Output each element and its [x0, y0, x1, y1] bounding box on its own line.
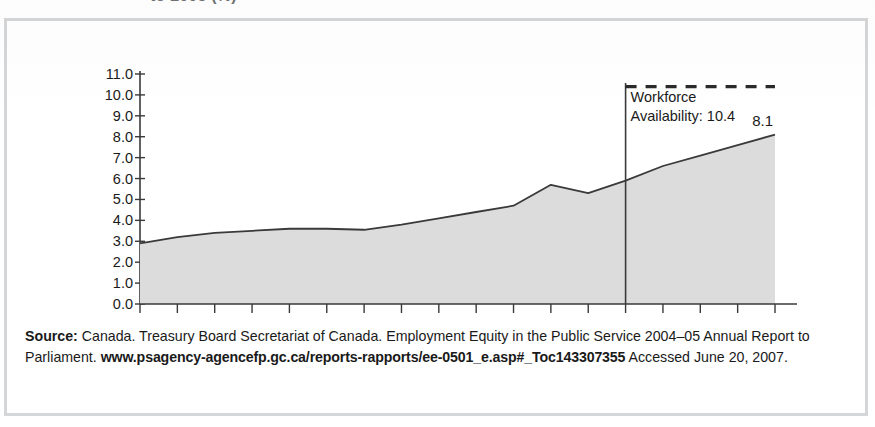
y-tick-label: 5.0	[113, 191, 133, 207]
workforce-availability-label-line1: Workforce	[631, 89, 697, 105]
source-line1: Canada. Treasury Board Secretariat of Ca…	[78, 328, 748, 344]
chart-figure: 0.01.02.03.04.05.06.07.08.09.010.011.0 W…	[7, 21, 865, 316]
y-tick-label: 7.0	[113, 150, 133, 166]
y-tick-label: 9.0	[113, 108, 133, 124]
y-tick-label: 0.0	[113, 296, 133, 312]
y-tick-label: 1.0	[113, 275, 133, 291]
y-tick-label: 3.0	[113, 233, 133, 249]
source-label: Source:	[25, 328, 78, 344]
figure-panel: 0.01.02.03.04.05.06.07.08.09.010.011.0 W…	[4, 18, 868, 416]
source-line2-after: Accessed	[625, 349, 690, 365]
source-line3: June 20, 2007.	[694, 349, 788, 365]
y-tick-label: 2.0	[113, 254, 133, 270]
figure-title-clipped: to 2005 (%)	[0, 0, 875, 16]
endpoint-value-label: 8.1	[752, 112, 773, 129]
y-tick-label: 8.0	[113, 129, 133, 145]
workforce-availability-label-line2: Availability: 10.4	[631, 108, 736, 124]
area-chart: 0.01.02.03.04.05.06.07.08.09.010.011.0 W…	[7, 21, 865, 316]
source-citation: Source: Canada. Treasury Board Secretari…	[25, 326, 849, 367]
y-tick-label: 11.0	[106, 66, 133, 82]
figure-title: to 2005 (%)	[150, 0, 237, 5]
source-url[interactable]: www.psagency-agencefp.gc.ca/reports-rapp…	[101, 349, 626, 365]
y-tick-label: 6.0	[113, 171, 133, 187]
y-tick-label: 10.0	[105, 87, 133, 103]
y-tick-label: 4.0	[113, 212, 133, 228]
